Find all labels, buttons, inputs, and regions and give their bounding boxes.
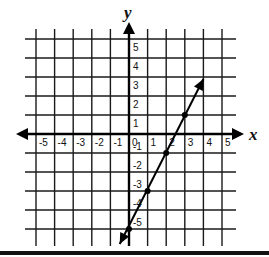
y-tick-label: 2: [133, 99, 139, 110]
bottom-rule: [0, 251, 269, 255]
plotted-point: [126, 226, 132, 232]
x-tick-label: -3: [76, 137, 85, 148]
y-axis-label: y: [122, 3, 132, 22]
y-axis-up-arrow-icon: [123, 22, 135, 34]
x-tick-label: -5: [39, 137, 48, 148]
y-tick-label: -2: [133, 160, 142, 171]
x-tick-label: 5: [225, 137, 231, 148]
x-axis-label: x: [248, 125, 258, 144]
x-tick-label: -4: [58, 137, 67, 148]
x-axis-right-arrow-icon: [232, 128, 244, 140]
plotted-point: [182, 112, 188, 118]
plotted-point: [163, 150, 169, 156]
y-tick-label: 3: [133, 80, 139, 91]
y-tick-label: 4: [133, 61, 139, 72]
x-tick-label: 3: [188, 137, 194, 148]
x-tick-label: 1: [151, 137, 157, 148]
y-tick-label: 1: [133, 118, 139, 129]
y-tick-label: -1: [133, 141, 142, 152]
x-axis-left-arrow-icon: [16, 128, 28, 140]
y-tick-label: 5: [133, 42, 139, 53]
x-tick-label: -1: [113, 137, 122, 148]
axes: [16, 22, 244, 246]
x-tick-label: 4: [206, 137, 212, 148]
plotted-point: [145, 188, 151, 194]
x-tick-label: -2: [95, 137, 104, 148]
y-tick-label: -5: [133, 217, 142, 228]
coordinate-plane: -5-4-3-2-101234554321-1-2-3-4-5 x y: [0, 0, 269, 257]
y-tick-label: -3: [133, 179, 142, 190]
